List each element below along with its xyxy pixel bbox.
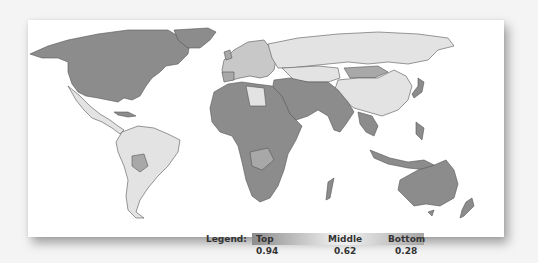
legend-bottom-label: Bottom: [388, 234, 425, 244]
legend-middle-label: Middle: [328, 234, 362, 244]
map-card: Legend: Top Middle Bottom 0.94 0.62 0.28: [28, 20, 504, 237]
region-southeast-asia[interactable]: [358, 112, 378, 136]
legend-top-value: 0.94: [256, 246, 278, 256]
region-north-america[interactable]: [30, 30, 190, 102]
legend-title: Legend:: [206, 234, 247, 244]
region-caribbean[interactable]: [114, 112, 136, 117]
region-tasmania[interactable]: [428, 210, 434, 216]
region-indonesia[interactable]: [370, 150, 436, 170]
legend-bottom-value: 0.28: [395, 246, 417, 256]
region-iberia[interactable]: [222, 72, 234, 82]
region-philippines[interactable]: [416, 122, 424, 140]
world-map: [28, 20, 504, 237]
region-russia[interactable]: [268, 32, 454, 68]
legend-top-label: Top: [256, 234, 274, 244]
region-south-america[interactable]: [116, 126, 180, 218]
region-madagascar[interactable]: [326, 178, 334, 200]
legend-middle-value: 0.62: [334, 246, 356, 256]
region-new-zealand[interactable]: [460, 198, 474, 218]
region-japan[interactable]: [412, 78, 424, 98]
